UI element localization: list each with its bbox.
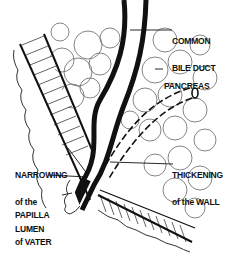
label-line: COMMON [172,37,216,46]
label-papilla: PAPILLA of VATER [15,193,51,256]
label-pancreas: PANCREAS [164,64,209,100]
label-line: PAPILLA [15,211,51,220]
label-line: THICKENING [172,171,223,180]
label-line: NARROWING [15,171,68,180]
label-line: of the WALL [172,198,223,207]
label-line: PANCREAS [164,82,209,91]
label-line: of VATER [15,238,51,247]
label-thickening: THICKENING of the WALL [172,153,223,216]
